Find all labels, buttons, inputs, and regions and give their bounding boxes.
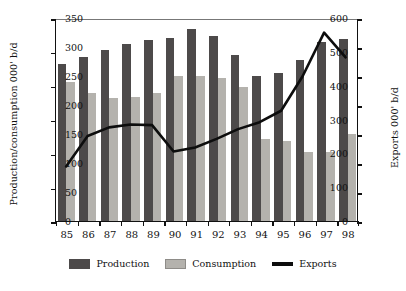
chart-figure: Production/consumption 000' b/d Exports …: [0, 0, 406, 291]
legend-label-production: Production: [96, 258, 149, 269]
y-tick-left-400: [51, 87, 56, 88]
x-tick-91: [186, 221, 187, 226]
x-axis-label-96: 96: [294, 229, 316, 240]
y-axis-label-left: Production/consumption 000' b/d: [8, 46, 19, 206]
x-tick-97: [316, 221, 317, 226]
exports-line-layer: [56, 20, 357, 221]
production-swatch: [69, 259, 90, 269]
y-tick-label-right-150: 150: [65, 129, 83, 140]
y-tick-label-left-600: 600: [330, 13, 348, 24]
x-tick-96: [294, 221, 295, 226]
y-tick-right-150: [357, 135, 362, 136]
legend-entry-consumption[interactable]: Consumption: [165, 258, 256, 269]
y-tick-label-right-200: 200: [65, 100, 83, 111]
x-axis-label-85: 85: [56, 229, 78, 240]
x-axis-label-87: 87: [99, 229, 121, 240]
exports-line-swatch: [272, 262, 293, 266]
exports-line-path: [66, 33, 346, 167]
consumption-swatch: [165, 259, 186, 269]
x-tick-93: [229, 221, 230, 226]
y-tick-label-left-300: 300: [330, 115, 348, 126]
y-tick-left-600: [51, 19, 56, 20]
x-axis-label-97: 97: [316, 229, 338, 240]
x-axis-label-98: 98: [337, 229, 359, 240]
y-tick-label-left-400: 400: [330, 81, 348, 92]
x-tick-87: [99, 221, 100, 226]
x-axis-label-92: 92: [207, 229, 229, 240]
y-tick-right-50: [357, 193, 362, 194]
x-tick-86: [78, 221, 79, 226]
legend-label-consumption: Consumption: [192, 258, 256, 269]
x-tick-98: [337, 221, 338, 226]
x-axis-label-95: 95: [272, 229, 294, 240]
y-tick-label-left-200: 200: [330, 148, 348, 159]
y-tick-label-left-0: 0: [342, 216, 348, 227]
y-tick-right-0: [357, 222, 362, 223]
x-tick-85: [56, 221, 57, 226]
y-tick-right-350: [357, 19, 362, 20]
y-tick-label-left-500: 500: [330, 47, 348, 58]
y-tick-label-right-350: 350: [65, 13, 83, 24]
y-tick-right-200: [357, 106, 362, 107]
y-tick-label-left-100: 100: [330, 182, 348, 193]
y-tick-label-right-50: 50: [65, 187, 77, 198]
y-tick-label-right-250: 250: [65, 71, 83, 82]
x-tick-92: [208, 221, 209, 226]
y-tick-label-right-100: 100: [65, 158, 83, 169]
x-axis-label-93: 93: [229, 229, 251, 240]
plot-area: 8586878889909192939495969798010020030040…: [55, 19, 358, 222]
y-tick-right-250: [357, 77, 362, 78]
y-axis-label-right: Exports 000' b/d: [389, 48, 400, 208]
y-tick-left-0: [51, 222, 56, 223]
y-tick-right-100: [357, 164, 362, 165]
y-tick-label-right-300: 300: [65, 42, 83, 53]
legend-entry-exports[interactable]: Exports: [272, 258, 336, 269]
x-axis-label-88: 88: [121, 229, 143, 240]
y-tick-left-300: [51, 121, 56, 122]
x-axis-label-86: 86: [77, 229, 99, 240]
y-tick-label-right-0: 0: [65, 216, 71, 227]
x-tick-89: [143, 221, 144, 226]
y-tick-left-200: [51, 155, 56, 156]
chart-legend: ProductionConsumptionExports: [0, 258, 406, 269]
y-tick-left-500: [51, 53, 56, 54]
x-tick-94: [251, 221, 252, 226]
legend-label-exports: Exports: [299, 258, 336, 269]
x-tick-95: [272, 221, 273, 226]
y-tick-right-300: [357, 48, 362, 49]
x-axis-label-90: 90: [164, 229, 186, 240]
y-tick-left-100: [51, 189, 56, 190]
x-axis-label-91: 91: [186, 229, 208, 240]
x-tick-90: [164, 221, 165, 226]
x-axis-label-89: 89: [142, 229, 164, 240]
legend-entry-production[interactable]: Production: [69, 258, 149, 269]
x-tick-88: [121, 221, 122, 226]
x-axis-label-94: 94: [251, 229, 273, 240]
